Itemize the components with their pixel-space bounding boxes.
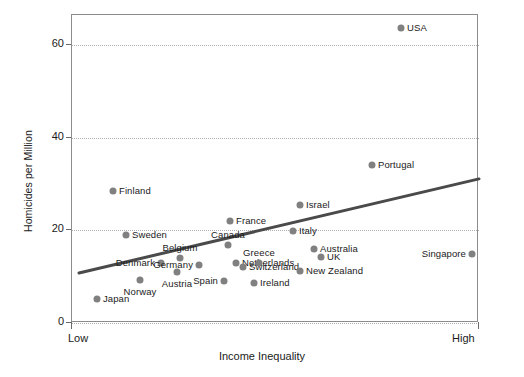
data-point[interactable] (256, 259, 263, 266)
data-point[interactable] (225, 242, 232, 249)
data-point[interactable] (398, 24, 405, 31)
data-point[interactable] (221, 278, 228, 285)
data-point-label: Singapore (422, 250, 466, 260)
data-point[interactable] (123, 231, 130, 238)
data-point-label: Austria (162, 279, 192, 289)
chart-canvas: Homicides per Million JapanFinlandSweden… (0, 0, 524, 377)
data-point[interactable] (297, 268, 304, 275)
x-axis-low-label: Low (68, 332, 88, 344)
y-tick-label: 60 (38, 38, 64, 49)
data-point-label: UK (327, 252, 340, 262)
data-point-label: Canada (211, 230, 245, 240)
data-point[interactable] (137, 277, 144, 284)
y-axis-title: Homicides per Million (22, 130, 34, 232)
data-point-label: New Zealand (306, 266, 363, 276)
data-point-label: Finland (119, 186, 151, 196)
data-point-label: Belgium (162, 243, 197, 253)
data-point-label: Sweden (132, 230, 167, 240)
data-point[interactable] (251, 280, 258, 287)
data-point[interactable] (196, 261, 203, 268)
data-point-label: Greece (243, 247, 275, 257)
x-axis-high-label: High (452, 332, 475, 344)
data-point[interactable] (369, 162, 376, 169)
data-point-label: Portugal (378, 161, 414, 171)
data-point[interactable] (227, 218, 234, 225)
gridline (72, 323, 479, 324)
data-point-label: Italy (299, 227, 317, 237)
y-tick-label: 20 (38, 223, 64, 234)
x-tick-mark (71, 322, 72, 329)
data-point-label: Norway (124, 287, 157, 297)
data-point-label: France (236, 216, 266, 226)
data-point[interactable] (94, 295, 101, 302)
data-point-label: Israel (306, 200, 330, 210)
data-point[interactable] (311, 245, 318, 252)
data-point-label: Denmark (116, 258, 155, 268)
data-point[interactable] (318, 254, 325, 261)
data-point-label: USA (407, 23, 427, 33)
x-tick-mark (478, 322, 479, 329)
data-point[interactable] (240, 264, 247, 271)
y-tick-label: 0 (38, 316, 64, 327)
y-tick-mark (66, 44, 71, 45)
data-point-label: Ireland (260, 278, 290, 288)
data-point-label: Germany (153, 260, 193, 270)
data-point[interactable] (110, 187, 117, 194)
data-point[interactable] (290, 228, 297, 235)
x-axis-title: Income Inequality (0, 350, 524, 362)
data-point[interactable] (297, 201, 304, 208)
data-point[interactable] (233, 259, 240, 266)
y-tick-mark (66, 229, 71, 230)
y-tick-mark (66, 137, 71, 138)
data-point-label: Spain (193, 277, 218, 287)
plot-area: JapanFinlandSwedenNorwayDenmarkBelgiumAu… (71, 14, 478, 322)
data-point[interactable] (469, 251, 476, 258)
y-tick-label: 40 (38, 131, 64, 142)
